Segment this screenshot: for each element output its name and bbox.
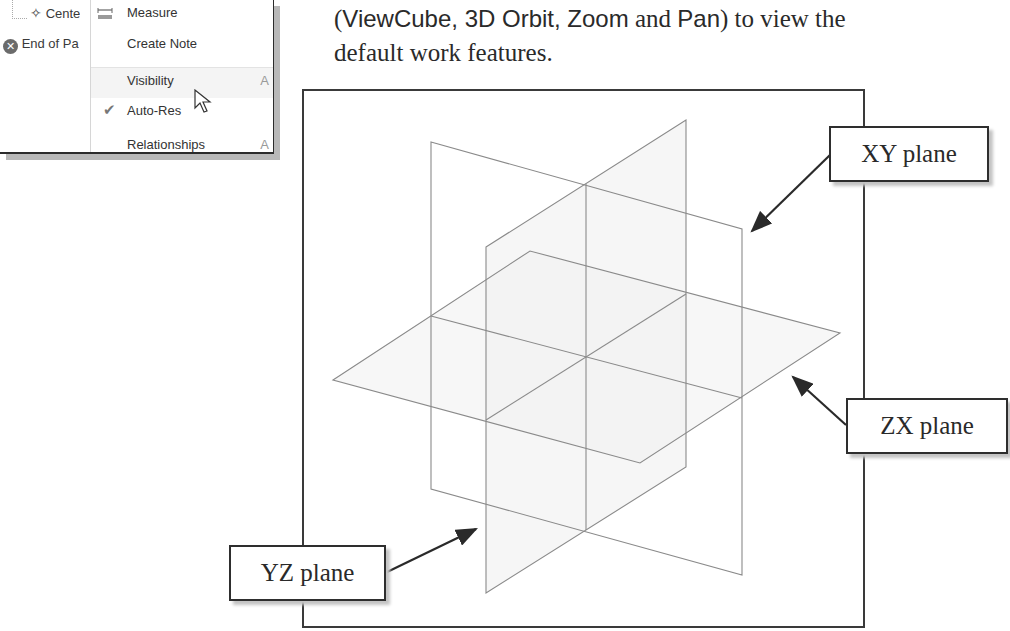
zx-plane-label: ZX plane: [846, 398, 1008, 454]
yz-plane-arrow: [385, 529, 476, 573]
xy-plane-label: XY plane: [829, 126, 989, 182]
work-planes-drawing: [0, 0, 1010, 631]
xy-plane-arrow: [752, 155, 830, 231]
yz-plane-label: YZ plane: [229, 545, 386, 601]
zx-plane-arrow: [793, 377, 846, 425]
